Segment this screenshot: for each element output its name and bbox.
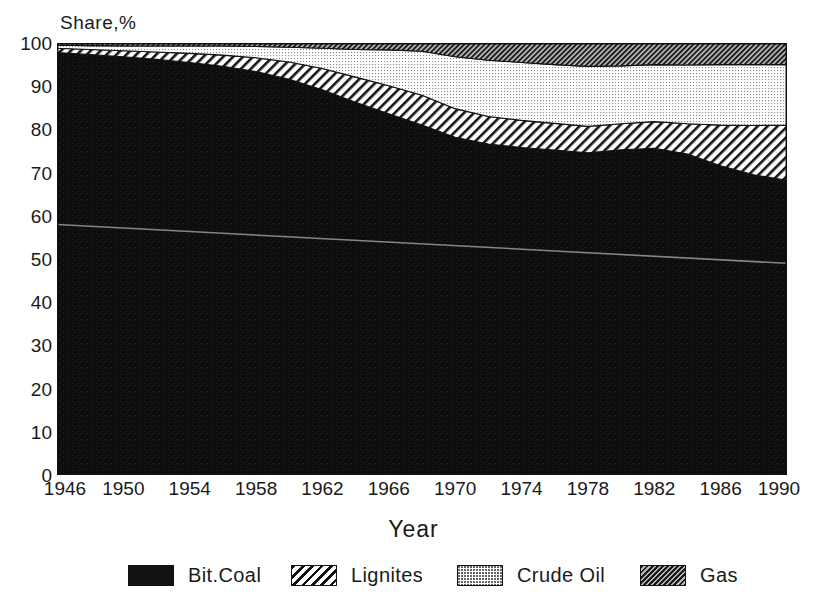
diagonal-hatch-swatch	[291, 565, 337, 586]
y-tick-label: 80	[4, 120, 52, 139]
legend-label: Bit.Coal	[188, 564, 261, 587]
y-tick-label: 90	[4, 77, 52, 96]
y-tick-label: 100	[4, 34, 52, 53]
dotted-light-swatch	[457, 565, 503, 586]
legend-label: Crude Oil	[517, 564, 605, 587]
chart-legend: Bit.CoalLignitesCrude OilGas	[0, 560, 827, 600]
x-tick-label: 1974	[487, 478, 557, 500]
y-tick-label: 30	[4, 336, 52, 355]
y-axis-title: Share,%	[60, 12, 136, 34]
legend-label: Gas	[700, 564, 738, 587]
plot-area	[57, 43, 787, 475]
y-tick-label: 10	[4, 423, 52, 442]
stacked-area-svg	[57, 43, 787, 475]
y-tick-label: 20	[4, 380, 52, 399]
x-tick-label: 1982	[619, 478, 689, 500]
y-tick-label: 60	[4, 207, 52, 226]
y-tick-label: 70	[4, 164, 52, 183]
x-tick-label: 1950	[88, 478, 158, 500]
legend-item-gas: Gas	[640, 560, 738, 590]
area-layers	[57, 43, 787, 475]
solid-black-swatch	[128, 565, 174, 586]
x-tick-label: 1966	[354, 478, 424, 500]
chart-figure: Share,% 0102030405060708090100	[0, 0, 827, 615]
x-tick-label: 1954	[155, 478, 225, 500]
y-tick-label: 40	[4, 293, 52, 312]
legend-item-lignites: Lignites	[291, 560, 423, 590]
x-tick-label: 1962	[287, 478, 357, 500]
x-tick-label: 1990	[744, 478, 814, 500]
x-tick-label: 1978	[553, 478, 623, 500]
legend-item-bit-coal: Bit.Coal	[128, 560, 261, 590]
dense-dark-hatch-swatch	[640, 565, 686, 586]
x-axis-tick-labels: 1946195019541958196219661970197419781982…	[0, 478, 827, 508]
legend-item-crude-oil: Crude Oil	[457, 560, 605, 590]
legend-label: Lignites	[351, 564, 423, 587]
x-tick-label: 1970	[420, 478, 490, 500]
x-tick-label: 1958	[221, 478, 291, 500]
y-tick-label: 50	[4, 250, 52, 269]
x-axis-title: Year	[0, 516, 827, 543]
